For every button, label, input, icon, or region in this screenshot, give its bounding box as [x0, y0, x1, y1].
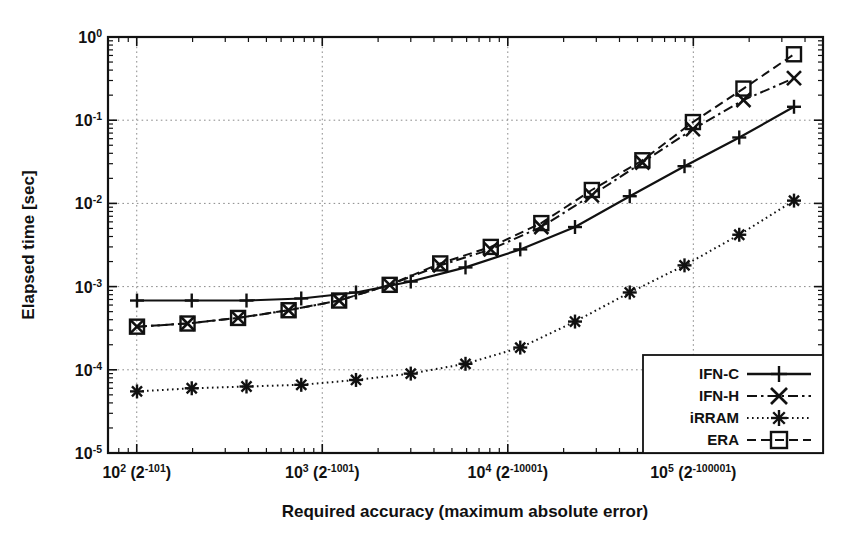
x-axis-title: Required accuracy (maximum absolute erro… [282, 502, 649, 521]
chart-legend[interactable]: IFN-CIFN-HiRRAMERA [643, 355, 823, 453]
legend-item-label: IFN-C [699, 365, 739, 382]
data-point-marker [404, 367, 418, 381]
legend-item-label: IFN-H [699, 387, 739, 404]
data-point-marker [732, 228, 746, 242]
data-point-marker [130, 384, 144, 398]
legend-item-label: ERA [707, 431, 739, 448]
data-point-marker [349, 373, 363, 387]
data-point-marker [185, 381, 199, 395]
legend-item-label: iRRAM [690, 409, 739, 426]
chart-background [0, 0, 855, 542]
chart-figure: 102 (2-101)103 (2-1001)104 (2-10001)105 … [0, 0, 855, 542]
data-point-marker [513, 341, 527, 355]
data-point-marker [623, 285, 637, 299]
data-point-marker [787, 194, 801, 208]
data-point-marker [771, 410, 787, 426]
y-axis-title: Elapsed time [sec] [19, 170, 38, 319]
data-point-marker [294, 378, 308, 392]
data-point-marker [568, 315, 582, 329]
data-point-marker [678, 258, 692, 272]
data-point-marker [459, 357, 473, 371]
data-point-marker [240, 379, 254, 393]
elapsed-time-vs-accuracy-chart: 102 (2-101)103 (2-1001)104 (2-10001)105 … [0, 0, 855, 542]
